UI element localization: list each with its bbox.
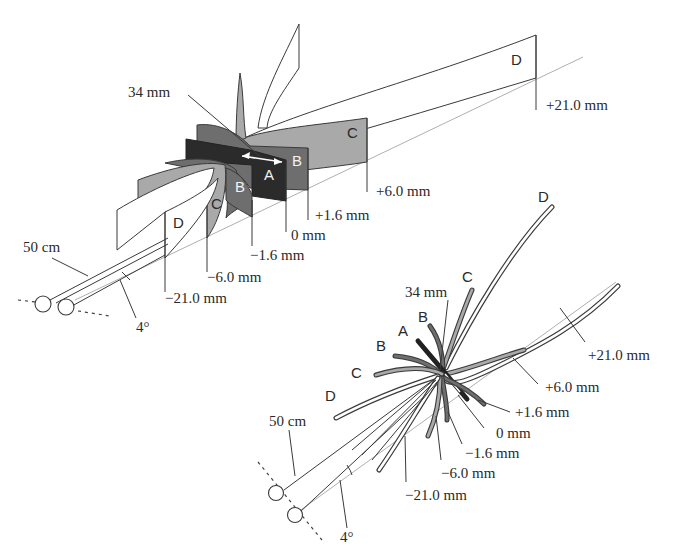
label-zero: 0 mm bbox=[291, 227, 326, 243]
surface-d-up bbox=[258, 24, 299, 128]
horopter-diagram: 34 mm 50 cm 4° A B B C C D D +21.0 mm +6… bbox=[0, 0, 684, 552]
label-50cm-2: 50 cm bbox=[269, 413, 306, 429]
ray-right-eye bbox=[72, 255, 165, 306]
label-curve-d-top: D bbox=[538, 188, 549, 205]
label-curve-a: A bbox=[398, 322, 408, 339]
label-surface-b-far: B bbox=[292, 152, 302, 169]
leader-pos6-2 bbox=[513, 358, 538, 384]
label-surface-a: A bbox=[264, 166, 274, 183]
leader-neg1-6-2 bbox=[448, 412, 462, 444]
label-surface-d-near: D bbox=[173, 214, 184, 231]
left-eye-icon bbox=[35, 296, 51, 312]
label-pos21: +21.0 mm bbox=[546, 97, 608, 113]
label-34mm-2: 34 mm bbox=[405, 284, 447, 300]
leader-neg6-2 bbox=[436, 416, 441, 460]
label-pos1-6: +1.6 mm bbox=[315, 207, 370, 223]
label-pos21-2: +21.0 mm bbox=[588, 347, 650, 363]
top-view: 34 mm 50 cm 4° A B B C C D D +21.0 mm +6… bbox=[18, 24, 608, 335]
interocular-dash-left bbox=[18, 300, 36, 302]
label-neg6-2: −6.0 mm bbox=[441, 465, 496, 481]
label-34mm: 34 mm bbox=[128, 84, 170, 100]
ray-left-eye-b bbox=[56, 244, 168, 303]
label-4deg: 4° bbox=[136, 319, 150, 335]
label-zero-2: 0 mm bbox=[496, 425, 531, 441]
ray-left-eye-a bbox=[50, 238, 168, 300]
angle-arc-icon bbox=[122, 272, 130, 280]
label-surface-b-near: B bbox=[235, 178, 245, 195]
label-curve-d-left: D bbox=[325, 387, 336, 404]
label-surface-c-far: C bbox=[347, 124, 358, 141]
interocular-dash-right bbox=[78, 311, 110, 316]
right-eye-icon bbox=[58, 299, 74, 315]
leader-neg21-2 bbox=[405, 436, 406, 482]
label-curve-c-top: C bbox=[462, 268, 473, 285]
label-curve-c-left: C bbox=[351, 364, 362, 381]
label-neg21-2: −21.0 mm bbox=[405, 487, 467, 503]
left-eye-icon-2 bbox=[269, 486, 284, 501]
fan-line bbox=[372, 382, 437, 460]
label-neg21: −21.0 mm bbox=[165, 290, 227, 306]
label-pos1-6-2: +1.6 mm bbox=[515, 404, 570, 420]
label-pos6-2: +6.0 mm bbox=[545, 379, 600, 395]
leader-4deg-2 bbox=[340, 480, 347, 528]
label-neg1-6: −1.6 mm bbox=[250, 247, 305, 263]
label-4deg-2: 4° bbox=[340, 529, 354, 545]
fan-line bbox=[352, 378, 436, 450]
label-curve-b-left: B bbox=[376, 337, 386, 354]
leader-4deg bbox=[120, 280, 136, 318]
label-surface-c-near: C bbox=[211, 195, 222, 212]
label-neg6: −6.0 mm bbox=[207, 269, 262, 285]
leader-50cm-2 bbox=[289, 430, 295, 476]
label-curve-b-top: B bbox=[418, 308, 428, 325]
right-eye-icon-2 bbox=[288, 508, 303, 523]
label-neg1-6-2: −1.6 mm bbox=[465, 445, 520, 461]
surface-c-up bbox=[236, 73, 246, 142]
ray-left-eye-2 bbox=[284, 375, 440, 490]
label-50cm: 50 cm bbox=[23, 239, 60, 255]
label-surface-d-far: D bbox=[511, 51, 522, 68]
leader-50cm bbox=[52, 258, 88, 276]
label-pos6: +6.0 mm bbox=[376, 183, 431, 199]
